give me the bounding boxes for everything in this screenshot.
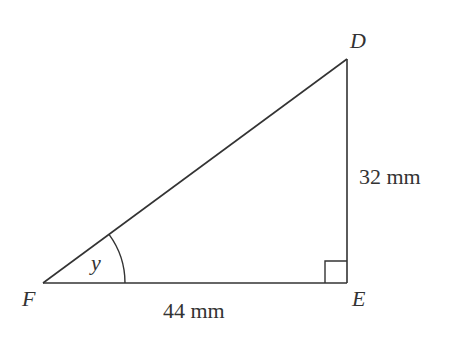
side-label-de: 32 mm: [359, 164, 421, 189]
angle-arc-y: [109, 234, 125, 283]
triangle-diagram: D E F y 32 mm 44 mm: [0, 0, 470, 346]
angle-label-y: y: [89, 250, 101, 275]
vertex-label-d: D: [349, 28, 366, 53]
side-label-fe: 44 mm: [163, 298, 225, 323]
vertex-label-e: E: [351, 286, 366, 311]
vertex-label-f: F: [21, 286, 36, 311]
right-angle-marker: [325, 261, 347, 283]
side-fd: [43, 59, 347, 283]
